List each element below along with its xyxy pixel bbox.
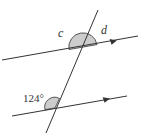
upper-parallel-line	[2, 36, 138, 60]
label-124-degrees: 124°	[23, 92, 44, 104]
transversal-line	[46, 10, 98, 133]
parallel-lines-diagram: c d 124°	[0, 0, 148, 139]
label-c: c	[58, 26, 64, 40]
upper-arrow-icon	[110, 38, 118, 45]
label-d: d	[101, 23, 108, 37]
